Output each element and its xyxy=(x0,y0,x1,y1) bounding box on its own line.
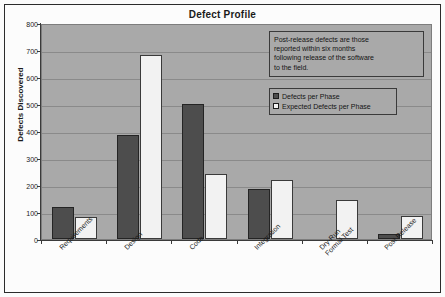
gridline xyxy=(42,214,431,215)
defect-profile-chart: Defect Profile 0100200300400500600700800… xyxy=(0,0,445,297)
x-tick-mark xyxy=(237,241,238,244)
y-tick-mark xyxy=(37,78,40,79)
gridline xyxy=(42,160,431,161)
x-tick-mark xyxy=(367,241,368,244)
y-tick-label: 200 xyxy=(4,183,38,190)
gridline xyxy=(42,187,431,188)
y-axis-title: Defects Discovered xyxy=(16,45,25,165)
legend-swatch-icon xyxy=(273,103,279,109)
legend-label: Expected Defects per Phase xyxy=(282,103,371,110)
annotation-line-3: following release of the software xyxy=(274,53,419,62)
bar xyxy=(205,174,227,239)
chart-legend: Defects per Phase Expected Defects per P… xyxy=(269,88,397,115)
y-tick-mark xyxy=(37,105,40,106)
x-tick-mark xyxy=(432,241,433,244)
annotation-line-1: Post-release defects are those xyxy=(274,35,419,44)
bar xyxy=(182,104,204,239)
legend-swatch-icon xyxy=(273,93,279,99)
x-tick-mark xyxy=(302,241,303,244)
x-tick-mark xyxy=(171,241,172,244)
bar xyxy=(140,55,162,239)
annotation-line-4: to the field. xyxy=(274,63,419,72)
chart-title: Defect Profile xyxy=(0,9,445,20)
y-tick-label: 0 xyxy=(4,237,38,244)
y-tick-mark xyxy=(37,24,40,25)
legend-label: Defects per Phase xyxy=(282,93,340,100)
y-axis-line xyxy=(40,23,41,241)
legend-item-defects-per-phase: Defects per Phase xyxy=(273,91,393,101)
gridline xyxy=(42,79,431,80)
gridline xyxy=(42,133,431,134)
x-tick-mark xyxy=(41,241,42,244)
y-tick-mark xyxy=(37,213,40,214)
y-tick-mark xyxy=(37,186,40,187)
x-tick-mark xyxy=(106,241,107,244)
y-tick-mark xyxy=(37,132,40,133)
annotation-line-2: reported within six months xyxy=(274,44,419,53)
y-tick-label: 800 xyxy=(4,21,38,28)
annotation-note: Post-release defects are those reported … xyxy=(269,31,424,77)
y-tick-mark xyxy=(37,51,40,52)
bar xyxy=(117,135,139,239)
y-tick-mark xyxy=(37,159,40,160)
y-tick-label: 100 xyxy=(4,210,38,217)
legend-item-expected-defects-per-phase: Expected Defects per Phase xyxy=(273,101,393,111)
